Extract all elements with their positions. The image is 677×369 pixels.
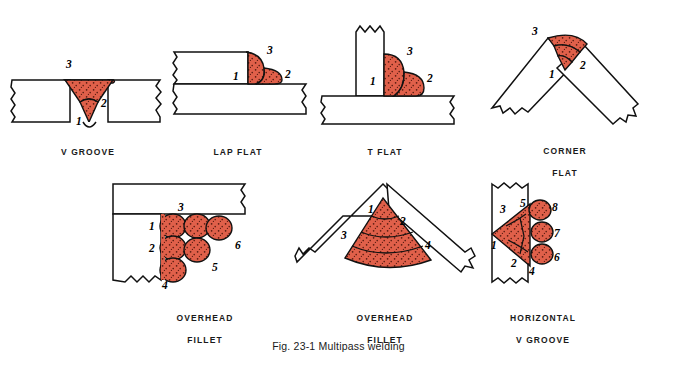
pass-number-1: 1 — [549, 69, 555, 81]
diagram-overhead-fillet-2: 1 2 3 4 — [295, 180, 480, 290]
label-lap-flat: LAP FLAT — [178, 147, 298, 158]
pass-number-1: 1 — [368, 204, 374, 216]
pass-number-2: 2 — [285, 69, 291, 81]
diagram-overhead-fillet-1: 3 1 6 2 5 4 — [105, 180, 275, 295]
plate-lower — [173, 84, 306, 114]
label-corner-flat-line1: CORNER — [510, 146, 620, 157]
weld-beads — [246, 52, 282, 84]
pass-number-1: 1 — [491, 240, 497, 252]
plate-horizontal — [321, 96, 454, 124]
label-t-flat: T FLAT — [325, 147, 445, 158]
pass-number-4: 4 — [162, 280, 168, 292]
pass-number-3: 3 — [500, 204, 506, 216]
diagram-corner-flat: 3 2 1 — [470, 22, 660, 132]
pass-number-2: 2 — [400, 216, 406, 228]
pass-number-4: 4 — [529, 266, 535, 278]
label-v-groove: V GROOVE — [28, 147, 148, 158]
pass-number-4: 4 — [425, 240, 431, 252]
pass-number-8: 8 — [552, 202, 558, 214]
plate-left — [11, 80, 70, 122]
label-overhead-fillet-1-line1: OVERHEAD — [150, 313, 260, 324]
diagram-horizontal-v-groove: 3 5 8 7 1 6 2 4 — [478, 178, 608, 298]
pass-number-3: 3 — [66, 59, 72, 71]
pass-number-3: 3 — [178, 202, 184, 214]
plate-right — [108, 80, 161, 122]
pass-number-2: 2 — [101, 98, 107, 110]
pass-number-3: 3 — [341, 230, 347, 242]
pass-number-6: 6 — [235, 240, 241, 252]
pass-number-2: 2 — [580, 60, 586, 72]
pass-number-6: 6 — [554, 252, 560, 264]
pass-number-2: 2 — [511, 258, 517, 270]
pass-number-1: 1 — [233, 71, 239, 83]
pass-number-1: 1 — [76, 116, 82, 128]
pass-number-1: 1 — [149, 221, 155, 233]
label-overhead-fillet-2-line1: OVERHEAD — [330, 313, 440, 324]
pass-number-5: 5 — [520, 198, 526, 210]
pass-number-7: 7 — [554, 228, 560, 240]
figure-caption: Fig. 23-1 Multipass welding — [0, 340, 677, 352]
weld-beads — [160, 214, 232, 282]
pass-number-2: 2 — [427, 73, 433, 85]
diagram-lap-flat: 3 2 1 — [170, 40, 310, 140]
diagram-v-groove: 3 2 1 — [8, 60, 168, 140]
pass-number-3: 3 — [407, 46, 413, 58]
pass-number-3: 3 — [267, 45, 273, 57]
diagram-t-flat: 3 2 1 — [310, 18, 460, 138]
pass-number-5: 5 — [212, 262, 218, 274]
weld-beads — [384, 54, 424, 96]
label-horizontal-v-groove-line1: HORIZONTAL — [478, 313, 608, 324]
pass-number-3: 3 — [532, 26, 538, 38]
pass-number-1: 1 — [370, 76, 376, 88]
pass-number-2: 2 — [149, 243, 155, 255]
weld-beads — [65, 80, 115, 127]
